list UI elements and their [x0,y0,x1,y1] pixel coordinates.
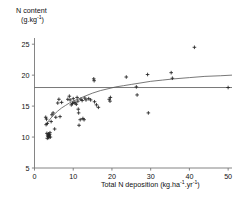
plot-canvas: 510152025 01020304050 [0,0,240,198]
y-tick-label: 5 [26,164,30,173]
data-point [95,103,99,107]
data-point [124,75,128,79]
data-point [49,120,53,124]
y-tick-label: 10 [22,133,30,142]
data-point [226,86,230,90]
data-point [193,45,197,49]
data-point-markers [44,45,230,140]
y-tick-label: 25 [22,40,30,49]
data-point [56,101,60,105]
data-point [77,111,81,115]
y-axis-tick-labels: 510152025 [22,40,30,173]
data-point [71,97,75,101]
y-tick-label: 20 [22,71,30,80]
data-point [108,99,112,103]
x-tick-label: 0 [33,172,37,181]
data-point [93,100,97,104]
x-tick-label: 30 [147,172,155,181]
data-point [66,97,70,101]
data-point [60,101,64,105]
data-point [135,93,139,97]
x-tick-label: 10 [69,172,77,181]
data-point [77,123,81,127]
scatter-plot-figure: N content (g.kg-1) Total N deposition (k… [0,0,240,198]
data-point [44,115,48,119]
data-point [57,97,61,101]
x-tick-label: 20 [108,172,116,181]
y-tick-label: 15 [22,102,30,111]
x-axis-tick-labels: 01020304050 [33,172,233,181]
data-point [53,127,57,131]
data-point [147,111,151,115]
data-point [54,115,58,119]
data-point [58,115,62,119]
data-point [146,73,150,77]
x-tick-label: 50 [224,172,232,181]
fitted-curve [46,75,232,125]
data-point [97,106,101,110]
data-point [76,107,80,111]
data-point [45,117,49,121]
data-point [135,85,139,89]
x-tick-label: 40 [185,172,193,181]
data-point [68,94,72,98]
data-point [92,79,96,83]
data-point [169,71,173,75]
data-point [68,98,72,102]
